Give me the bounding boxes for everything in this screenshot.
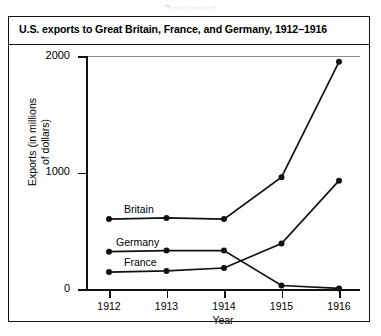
points-series-britain <box>106 59 342 222</box>
plot-area: 2000 1000 0 Exports (in millions of doll… <box>9 17 369 321</box>
series-layer <box>9 17 369 321</box>
data-point-france-1913 <box>164 268 170 274</box>
line-series-britain <box>109 62 339 219</box>
data-point-germany-1914 <box>221 248 227 254</box>
clipped-page-header: Document <box>0 0 381 14</box>
data-point-germany-1915 <box>279 283 285 289</box>
series-label-france: France <box>123 256 158 268</box>
figure-frame: U.S. exports to Great Britain, France, a… <box>8 16 370 322</box>
data-point-france-1914 <box>221 265 227 271</box>
data-point-britain-1916 <box>336 59 342 65</box>
series-label-germany: Germany <box>115 236 160 248</box>
data-point-britain-1912 <box>106 216 112 222</box>
data-point-britain-1914 <box>221 216 227 222</box>
data-point-germany-1912 <box>106 249 112 255</box>
data-point-france-1912 <box>106 269 112 275</box>
data-point-britain-1915 <box>279 174 285 180</box>
chart-screenshot: Document U.S. exports to Great Britain, … <box>0 0 381 336</box>
data-point-germany-1916 <box>336 285 342 291</box>
data-point-france-1915 <box>279 241 285 247</box>
data-point-britain-1913 <box>164 215 170 221</box>
series-label-britain: Britain <box>123 203 155 215</box>
data-point-france-1916 <box>336 178 342 184</box>
data-point-germany-1913 <box>164 248 170 254</box>
